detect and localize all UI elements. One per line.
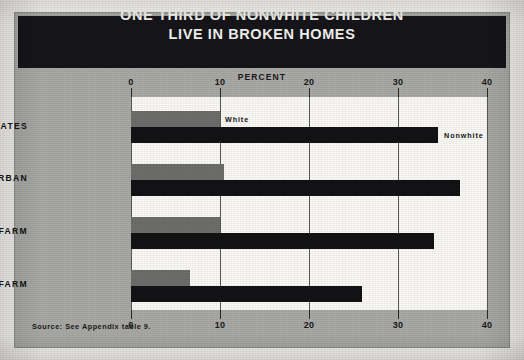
chart-title-line2: LIVE IN BROKEN HOMES <box>0 25 524 44</box>
bar-united-states-white <box>131 111 220 127</box>
category-label-united-states: UNITED STATES <box>0 121 28 131</box>
chart-title-line1: ONE THIRD OF NONWHITE CHILDREN <box>120 7 404 23</box>
gridline-40 <box>487 97 488 310</box>
xtick-top-30: 30 <box>393 77 404 87</box>
bar-united-states-nonwhite <box>131 127 438 143</box>
tick-top-0 <box>131 88 132 97</box>
xtick-bottom-20: 20 <box>304 320 315 330</box>
tick-top-20 <box>309 88 310 97</box>
bar-rural-farm-white <box>131 270 190 286</box>
series-tag-white: White <box>225 115 249 124</box>
tick-top-30 <box>398 88 399 97</box>
xtick-bottom-40: 40 <box>482 320 493 330</box>
chart-title: ONE THIRD OF NONWHITE CHILDREN LIVE IN B… <box>0 6 524 44</box>
tick-bottom-40 <box>487 310 488 319</box>
series-tag-nonwhite: Nonwhite <box>444 131 484 140</box>
bar-rural-nonfarm-white <box>131 217 220 233</box>
chart-screenshot: ONE THIRD OF NONWHITE CHILDREN LIVE IN B… <box>0 0 524 360</box>
category-label-urban: URBAN <box>0 173 28 183</box>
category-label-rural-nonfarm: RURAL NONFARM <box>0 226 28 236</box>
xtick-bottom-10: 10 <box>215 320 226 330</box>
bar-rural-nonfarm-nonwhite <box>131 233 434 249</box>
bar-rural-farm-nonwhite <box>131 286 362 302</box>
tick-bottom-30 <box>398 310 399 319</box>
tick-bottom-20 <box>309 310 310 319</box>
bar-urban-nonwhite <box>131 180 460 196</box>
bar-urban-white <box>131 164 224 180</box>
xtick-top-0: 0 <box>128 77 133 87</box>
xtick-top-40: 40 <box>482 77 493 87</box>
category-label-rural-farm: RURAL FARM <box>0 279 28 289</box>
tick-top-10 <box>220 88 221 97</box>
xtick-top-20: 20 <box>304 77 315 87</box>
tick-bottom-0 <box>131 310 132 319</box>
x-axis-caption: PERCENT <box>0 72 524 82</box>
xtick-top-10: 10 <box>215 77 226 87</box>
source-note: Source: See Appendix table 9. <box>32 322 151 331</box>
tick-bottom-10 <box>220 310 221 319</box>
xtick-bottom-30: 30 <box>393 320 404 330</box>
tick-top-40 <box>487 88 488 97</box>
